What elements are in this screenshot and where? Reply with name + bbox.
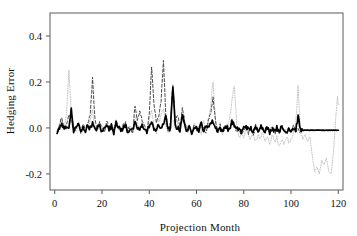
x-tick-label: 60 (191, 198, 202, 209)
hedging-error-chart-figure: 0204060801001200.40.20.0-0.2 Projection … (0, 0, 357, 236)
y-tick-label: 0.2 (29, 77, 42, 88)
x-tick-label: 40 (144, 198, 155, 209)
y-tick-label: 0.4 (29, 31, 43, 42)
x-tick-label: 100 (283, 198, 299, 209)
x-tick-label: 20 (97, 198, 108, 209)
x-tick-label: 80 (239, 198, 250, 209)
y-tick-label: 0.0 (29, 123, 42, 134)
y-axis-title: Hedging Error (4, 68, 16, 135)
hedging-error-line-chart: 0204060801001200.40.20.0-0.2 Projection … (0, 0, 357, 236)
x-axis-title: Projection Month (160, 221, 241, 233)
x-tick-label: 120 (330, 198, 346, 209)
x-tick-label: 0 (52, 198, 57, 209)
y-tick-label: -0.2 (25, 169, 42, 180)
